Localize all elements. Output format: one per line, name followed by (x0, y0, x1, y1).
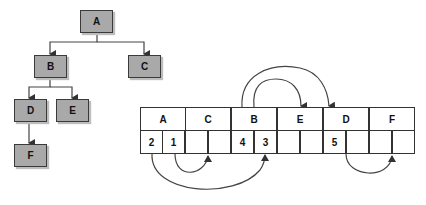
array-slot-cell: 1 (162, 130, 185, 154)
array-slot-cell (185, 130, 208, 154)
array-header-cell: E (277, 107, 323, 131)
array-slot-cell: 4 (231, 130, 254, 154)
tree-node-a: A (80, 10, 113, 33)
array-header-cell: A (140, 107, 186, 131)
array-header-cell: C (185, 107, 231, 131)
array-slot-cell (208, 130, 231, 154)
array-slot-cell (300, 130, 323, 154)
tree-node-c: C (128, 55, 161, 78)
array-header-cell: D (323, 107, 369, 131)
array-slot-cell: 5 (323, 130, 346, 154)
array-header-cell: F (369, 107, 415, 131)
tree-node-f: F (14, 144, 47, 167)
array-slot-cell: 2 (140, 130, 163, 154)
tree-node-b: B (34, 55, 67, 78)
array-slot-cell (392, 130, 415, 154)
array-representation: A C B E D F 2 1 4 3 5 (140, 107, 415, 154)
array-slot-cell (277, 130, 300, 154)
array-slot-cell: 3 (254, 130, 277, 154)
array-slot-cell (346, 130, 369, 154)
array-slot-cell (369, 130, 392, 154)
tree-node-e: E (56, 99, 89, 122)
array-header-cell: B (231, 107, 277, 131)
tree-node-d: D (14, 99, 47, 122)
